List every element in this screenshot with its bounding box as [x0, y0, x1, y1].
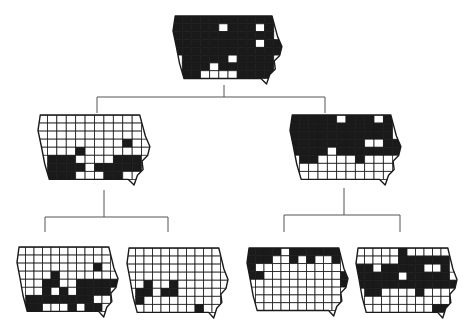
county-cell-filled — [307, 256, 316, 264]
county-cell-empty — [273, 279, 282, 287]
county-cell-filled — [34, 295, 43, 303]
county-cell-empty — [332, 264, 341, 272]
county-cell-empty — [382, 256, 391, 264]
county-cell-empty — [104, 115, 113, 123]
county-cell-empty — [383, 155, 392, 163]
county-cell-filled — [68, 295, 77, 303]
county-cell-empty — [332, 271, 341, 279]
county-cell-empty — [281, 303, 290, 311]
county-cell-empty — [95, 131, 104, 139]
county-cell-empty — [102, 271, 111, 279]
county-cell-empty — [136, 272, 145, 280]
county-cell-empty — [382, 296, 391, 304]
county-cell-filled — [201, 63, 210, 71]
map-level1-right — [290, 115, 402, 185]
county-cell-empty — [212, 264, 221, 272]
county-cell-empty — [324, 295, 333, 303]
county-cell-empty — [307, 287, 316, 295]
county-cell-empty — [390, 248, 399, 256]
county-cell-filled — [256, 63, 265, 71]
county-cell-empty — [187, 256, 196, 264]
county-cell-filled — [256, 271, 265, 279]
county-cell-empty — [153, 296, 162, 304]
county-cell-empty — [318, 171, 327, 179]
county-cell-filled — [383, 147, 392, 155]
county-cell-filled — [416, 280, 425, 288]
county-grid — [247, 248, 349, 311]
county-cell-filled — [201, 47, 210, 55]
county-cell-filled — [85, 287, 94, 295]
county-cell-empty — [365, 296, 374, 304]
county-cell-filled — [433, 256, 442, 264]
county-cell-empty — [307, 279, 316, 287]
county-cell-filled — [256, 55, 265, 63]
county-cell-empty — [187, 280, 196, 288]
county-cell-filled — [170, 280, 179, 288]
county-cell-empty — [85, 139, 94, 147]
county-cell-filled — [182, 16, 191, 24]
county-cell-empty — [161, 264, 170, 272]
county-cell-filled — [346, 115, 355, 123]
county-cell-filled — [315, 248, 324, 256]
county-cell-empty — [399, 288, 408, 296]
county-cell-empty — [324, 271, 333, 279]
county-cell-filled — [144, 280, 153, 288]
county-cell-empty — [161, 304, 170, 312]
county-cell-empty — [204, 272, 213, 280]
county-cell-filled — [373, 280, 382, 288]
county-cell-empty — [219, 71, 228, 79]
county-cell-empty — [68, 255, 77, 263]
county-cell-empty — [104, 131, 113, 139]
county-cell-filled — [191, 63, 200, 71]
county-cell-empty — [264, 279, 273, 287]
county-cell-empty — [132, 123, 141, 131]
county-cell-filled — [237, 24, 246, 32]
county-cell-empty — [85, 123, 94, 131]
county-cell-filled — [43, 295, 52, 303]
county-cell-filled — [390, 280, 399, 288]
county-cell-empty — [123, 123, 132, 131]
county-cell-empty — [113, 123, 122, 131]
county-cell-empty — [309, 171, 318, 179]
county-cell-empty — [178, 304, 187, 312]
county-cell-filled — [327, 115, 336, 123]
county-cell-empty — [43, 303, 52, 311]
county-cell-filled — [383, 139, 392, 147]
county-cell-empty — [273, 287, 282, 295]
county-cell-empty — [77, 255, 86, 263]
county-cell-empty — [85, 247, 94, 255]
county-cell-empty — [433, 296, 442, 304]
county-cell-empty — [104, 147, 113, 155]
county-cell-filled — [332, 256, 341, 264]
county-cell-filled — [374, 123, 383, 131]
county-cell-filled — [327, 131, 336, 139]
county-cell-filled — [299, 131, 308, 139]
county-cell-filled — [424, 280, 433, 288]
county-cell-filled — [265, 55, 274, 63]
county-cell-empty — [273, 295, 282, 303]
county-cell-empty — [57, 139, 66, 147]
county-cell-filled — [219, 55, 228, 63]
county-cell-empty — [324, 303, 333, 311]
county-cell-filled — [210, 47, 219, 55]
county-cell-filled — [170, 288, 179, 296]
county-cell-empty — [382, 248, 391, 256]
county-cell-empty — [346, 155, 355, 163]
county-cell-filled — [228, 24, 237, 32]
county-cell-filled — [382, 280, 391, 288]
county-cell-empty — [374, 115, 383, 123]
county-cell-empty — [102, 295, 111, 303]
county-cell-filled — [246, 63, 255, 71]
county-cell-filled — [337, 123, 346, 131]
county-cell-empty — [153, 264, 162, 272]
county-cell-filled — [60, 295, 69, 303]
county-cell-empty — [433, 288, 442, 296]
county-cell-empty — [60, 271, 69, 279]
county-cell-filled — [104, 171, 113, 179]
county-cell-empty — [68, 287, 77, 295]
county-cell-empty — [219, 24, 228, 32]
county-cell-filled — [77, 295, 86, 303]
county-cell-filled — [51, 295, 60, 303]
county-cell-filled — [337, 139, 346, 147]
county-cell-empty — [195, 288, 204, 296]
